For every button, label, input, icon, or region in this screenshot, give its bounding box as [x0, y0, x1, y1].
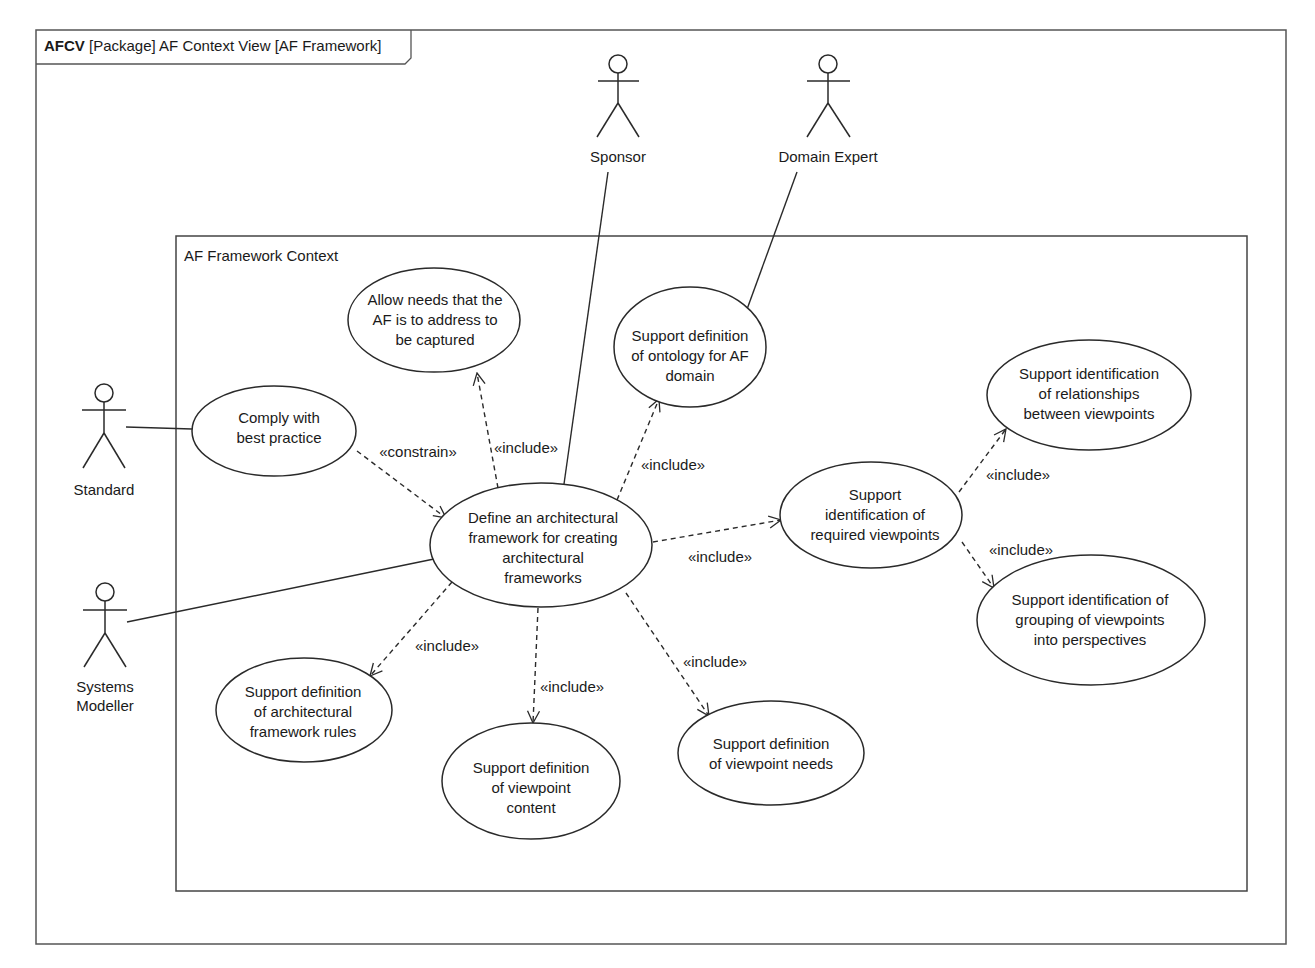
text-line: best practice	[236, 428, 321, 448]
text-line: grouping of viewpoints	[1012, 610, 1169, 630]
text-line: required viewpoints	[810, 525, 939, 545]
text-line: AF is to address to	[367, 310, 502, 330]
text-line: framework for creating	[468, 528, 618, 548]
package-frame	[36, 30, 1286, 944]
frame-title-text: [Package] AF Context View [AF Framework]	[89, 37, 381, 54]
text-line: content	[473, 798, 590, 818]
assoc-sponsor-define	[564, 172, 608, 484]
stereotype-include-ontology: «include»	[641, 456, 705, 473]
text-line: Support definition	[631, 326, 749, 346]
text-line: Define an architectural	[468, 508, 618, 528]
text-line: between viewpoints	[1019, 404, 1159, 424]
text-line: be captured	[367, 330, 502, 350]
stereotype-include-allow: «include»	[494, 439, 558, 456]
stereotype-include-content: «include»	[540, 678, 604, 695]
text-line: Support definition	[473, 758, 590, 778]
text-line: of viewpoint needs	[709, 754, 833, 774]
actor-standard-icon[interactable]	[82, 384, 126, 468]
text-line: identification of	[810, 505, 939, 525]
dep-required-relationships	[959, 429, 1006, 492]
usecase-grouping-text: Support identification of grouping of vi…	[1012, 590, 1169, 650]
usecase-ontology-text: Support definition of ontology for AF do…	[631, 326, 749, 386]
stereotype-include-grouping: «include»	[989, 541, 1053, 558]
actor-sponsor-icon[interactable]	[597, 55, 639, 137]
frame-title: AFCV [Package] AF Context View [AF Frame…	[44, 37, 381, 54]
actor-domain-expert-label: Domain Expert	[778, 147, 877, 166]
dep-define-required	[653, 520, 781, 542]
stereotype-constrain: «constrain»	[379, 443, 457, 460]
usecase-needs-text: Support definition of viewpoint needs	[709, 734, 833, 774]
usecase-rules-text: Support definition of architectural fram…	[245, 682, 362, 742]
dep-comply-define-constrain	[357, 451, 446, 518]
text-line: of relationships	[1019, 384, 1159, 404]
usecase-define-text: Define an architectural framework for cr…	[468, 508, 618, 588]
text-line: Support definition	[245, 682, 362, 702]
stereotype-include-rules: «include»	[415, 637, 479, 654]
dep-define-allow	[477, 373, 498, 488]
text-line: framework rules	[245, 722, 362, 742]
usecase-required-viewpoints-text: Support identification of required viewp…	[810, 485, 939, 545]
assoc-domain-expert-ontology	[746, 172, 797, 312]
text-line: of architectural	[245, 702, 362, 722]
text-line: Support definition	[709, 734, 833, 754]
text-line: Support identification	[1019, 364, 1159, 384]
stereotype-include-relationships: «include»	[986, 466, 1050, 483]
assoc-modeller-define	[127, 559, 434, 622]
assoc-standard-comply	[126, 427, 192, 429]
text-line: frameworks	[468, 568, 618, 588]
usecase-content-text: Support definition of viewpoint content	[473, 758, 590, 818]
system-boundary-title: AF Framework Context	[184, 247, 338, 264]
dep-define-ontology	[617, 399, 659, 500]
text-line: domain	[631, 366, 749, 386]
text-line: into perspectives	[1012, 630, 1169, 650]
frame-kind: AFCV	[44, 37, 85, 54]
text-line: architectural	[468, 548, 618, 568]
actor-systems-modeller-label-line2: Modeller	[76, 696, 134, 715]
actor-systems-modeller-label: Systems Modeller	[76, 677, 134, 715]
usecase-comply-text: Comply with best practice	[236, 408, 321, 448]
actor-sponsor-label: Sponsor	[590, 147, 646, 166]
text-line: Allow needs that the	[367, 290, 502, 310]
actor-domain-expert-icon[interactable]	[807, 55, 850, 137]
stereotype-include-needs: «include»	[683, 653, 747, 670]
text-line: Support	[810, 485, 939, 505]
actor-systems-modeller-icon[interactable]	[83, 583, 127, 667]
usecase-relationships-text: Support identification of relationships …	[1019, 364, 1159, 424]
diagram-canvas	[0, 0, 1315, 968]
actor-systems-modeller-label-line1: Systems	[76, 677, 134, 696]
text-line: of viewpoint	[473, 778, 590, 798]
dep-define-content	[533, 608, 538, 723]
usecase-allow-needs-text: Allow needs that the AF is to address to…	[367, 290, 502, 350]
text-line: Support identification of	[1012, 590, 1169, 610]
stereotype-include-required: «include»	[688, 548, 752, 565]
text-line: of ontology for AF	[631, 346, 749, 366]
dep-define-rules	[370, 582, 452, 676]
text-line: Comply with	[236, 408, 321, 428]
actor-standard-label: Standard	[74, 480, 135, 499]
